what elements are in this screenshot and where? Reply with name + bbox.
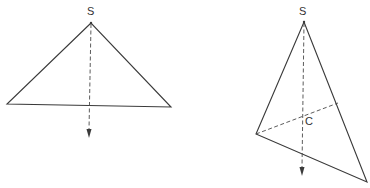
right-center-label: C [305, 116, 313, 127]
left-triangle-figure [7, 22, 171, 138]
diagram-canvas [0, 0, 370, 188]
left-triangle [7, 23, 171, 107]
right-apex-label: S [299, 6, 306, 17]
right-triangle-figure [256, 21, 367, 182]
right-apex-point [303, 21, 305, 23]
left-plumb-line [89, 24, 91, 130]
right-plumb-arrow-icon [300, 167, 305, 176]
left-apex-point [90, 22, 92, 24]
right-triangle [256, 22, 367, 182]
left-apex-label: S [87, 6, 94, 17]
right-plumb-line [302, 23, 304, 168]
right-median-line [256, 103, 338, 134]
left-plumb-arrow-icon [87, 129, 92, 138]
